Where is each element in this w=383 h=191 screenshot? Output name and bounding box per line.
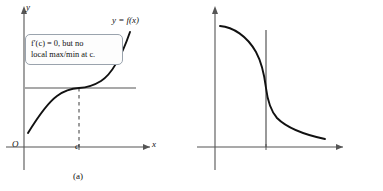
panel-a-graphic — [0, 0, 191, 191]
callout-a-line-1: f′(c) = 0, but no — [31, 38, 117, 49]
panel-b-graphic — [191, 0, 382, 191]
panel-a: y x O c y = f(x) f′(c) = 0, but no local… — [0, 0, 191, 191]
figure-root: y x O c y = f(x) f′(c) = 0, but no local… — [0, 0, 383, 191]
y-axis-label-a: y — [26, 2, 30, 12]
x-axis-label-a: x — [152, 139, 156, 149]
curve-label-a: y = f(x) — [112, 15, 139, 25]
callout-box-a: f′(c) = 0, but no local max/min at c. — [25, 34, 123, 65]
panel-b: y x O c y = f(x) f′(c) does not exist, b… — [191, 0, 382, 191]
x-axis-b — [197, 144, 343, 150]
origin-label-a: O — [12, 139, 19, 149]
callout-a-line-2: local max/min at c. — [31, 49, 117, 60]
tick-label-c-a: c — [75, 141, 79, 151]
y-axis-b — [212, 6, 218, 170]
curve-b — [220, 26, 325, 139]
caption-a: (a) — [58, 171, 98, 181]
